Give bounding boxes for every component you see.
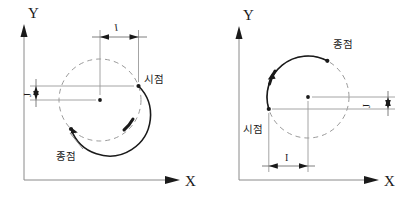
left-x-axis-label: X bbox=[185, 173, 196, 189]
arc-interpolation-diagram: Y X 시점 종점 I bbox=[0, 0, 415, 202]
left-dimension-j: J bbox=[22, 79, 134, 107]
left-dimension-i-label: I bbox=[114, 22, 119, 33]
left-end-point-dot bbox=[69, 127, 73, 131]
right-x-axis bbox=[239, 176, 379, 184]
right-x-axis-label: X bbox=[384, 173, 395, 189]
right-end-point-label: 종점 bbox=[333, 38, 353, 50]
left-end-point-leader bbox=[70, 133, 83, 149]
right-start-point-dot bbox=[267, 107, 271, 111]
left-y-axis bbox=[21, 24, 28, 180]
left-end-point-label: 종점 bbox=[56, 150, 76, 162]
left-arc-center-dot bbox=[98, 98, 102, 102]
right-dimension-i-label: I bbox=[285, 152, 288, 163]
right-diagram: Y X 시점 종점 J bbox=[236, 7, 396, 189]
left-arc-thick-accent bbox=[124, 119, 133, 130]
left-x-axis bbox=[24, 176, 180, 184]
right-y-axis bbox=[236, 26, 243, 180]
right-y-axis-label: Y bbox=[243, 7, 254, 23]
figure-canvas: Y X 시점 종점 I bbox=[0, 0, 415, 202]
right-end-point-dot bbox=[325, 59, 329, 63]
left-diagram: Y X 시점 종점 I bbox=[21, 5, 197, 189]
right-dimension-j-label: J bbox=[361, 104, 372, 108]
right-dimension-j: J bbox=[272, 91, 395, 116]
right-arc-center-dot bbox=[306, 95, 310, 99]
left-start-point-dot bbox=[136, 84, 140, 88]
left-start-point-label: 시점 bbox=[144, 73, 164, 85]
left-arc-path bbox=[71, 86, 151, 156]
right-dimension-i: I bbox=[262, 101, 315, 172]
right-start-point-label: 시점 bbox=[243, 123, 263, 135]
right-arc-path bbox=[267, 56, 327, 109]
left-y-axis-label: Y bbox=[28, 5, 39, 21]
left-dimension-j-label: J bbox=[22, 93, 33, 97]
